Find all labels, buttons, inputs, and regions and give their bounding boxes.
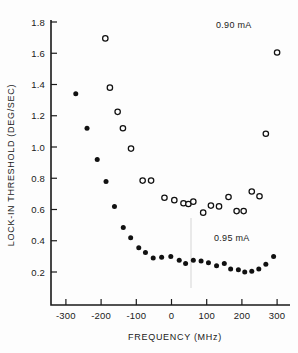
data-point-open (107, 85, 112, 90)
data-point-open (241, 208, 246, 213)
x-tick-label: 100 (198, 310, 214, 321)
y-tick-label: 0.6 (31, 204, 45, 215)
series-0-90mA-points (103, 36, 280, 216)
data-point-open (226, 194, 231, 199)
data-point-filled (271, 254, 276, 259)
data-point-filled (222, 261, 227, 266)
data-point-filled (136, 245, 141, 250)
data-point-filled (104, 179, 109, 184)
y-tick-label: 1.2 (31, 110, 45, 121)
data-point-filled (159, 255, 164, 260)
data-point-filled (95, 157, 100, 162)
data-point-filled (112, 204, 117, 209)
data-point-open (257, 194, 262, 199)
scatter-plot: 1.81.61.41.21.00.80.60.40.2 -300-200-100… (0, 0, 298, 353)
x-axis-label: FREQUENCY (MHz) (128, 332, 222, 342)
data-point-filled (177, 258, 182, 263)
data-point-filled (206, 260, 211, 265)
data-point-open (216, 204, 221, 209)
data-point-filled (121, 225, 126, 230)
data-point-filled (168, 254, 173, 259)
x-axis-tick-labels: -300-200-1000100200300 (56, 310, 285, 321)
data-point-filled (263, 262, 268, 267)
data-point-open (274, 50, 279, 55)
y-axis-ticks (51, 22, 57, 272)
series-0-95mA-points (73, 91, 276, 274)
y-tick-label: 0.2 (31, 267, 45, 278)
figure-container: 1.81.61.41.21.00.80.60.40.2 -300-200-100… (0, 0, 298, 353)
data-point-filled (228, 266, 233, 271)
axis-lines (51, 20, 290, 305)
x-tick-label: 200 (234, 310, 250, 321)
data-point-open (172, 197, 177, 202)
data-point-open (191, 199, 196, 204)
data-point-filled (242, 270, 247, 275)
x-tick-label: -300 (56, 310, 76, 321)
data-point-filled (73, 91, 78, 96)
data-point-filled (143, 250, 148, 255)
y-axis-label: LOCK-IN THRESHOLD (DEG/SEC) (6, 84, 16, 246)
x-axis-ticks (66, 299, 277, 305)
data-point-open (148, 178, 153, 183)
data-point-open (200, 210, 205, 215)
data-point-open (208, 203, 213, 208)
y-tick-label: 1.8 (31, 17, 45, 28)
data-point-open (140, 178, 145, 183)
data-point-filled (249, 269, 254, 274)
x-tick-label: -100 (126, 310, 146, 321)
data-point-open (162, 195, 167, 200)
data-point-open (263, 131, 268, 136)
data-point-filled (256, 266, 261, 271)
data-point-open (120, 126, 125, 131)
x-tick-label: 0 (169, 310, 174, 321)
data-point-open (249, 189, 254, 194)
y-axis-tick-labels: 1.81.61.41.21.00.80.60.40.2 (31, 17, 45, 278)
x-tick-label: 300 (269, 310, 285, 321)
data-point-open (103, 36, 108, 41)
data-point-open (234, 208, 239, 213)
data-point-filled (183, 261, 188, 266)
annotation-0-90mA: 0.90 mA (216, 20, 252, 30)
data-point-filled (199, 259, 204, 264)
data-point-filled (85, 126, 90, 131)
y-tick-label: 0.8 (31, 173, 45, 184)
data-point-filled (214, 263, 219, 268)
y-tick-label: 0.4 (31, 235, 45, 246)
data-point-filled (191, 258, 196, 263)
data-point-filled (151, 255, 156, 260)
annotation-0-95mA: 0.95 mA (214, 233, 250, 243)
data-point-open (128, 146, 133, 151)
x-tick-label: -200 (91, 310, 111, 321)
y-tick-label: 1.0 (31, 142, 45, 153)
data-point-filled (128, 235, 133, 240)
data-point-filled (236, 267, 241, 272)
data-point-open (115, 109, 120, 114)
y-tick-label: 1.4 (31, 79, 45, 90)
y-tick-label: 1.6 (31, 48, 45, 59)
